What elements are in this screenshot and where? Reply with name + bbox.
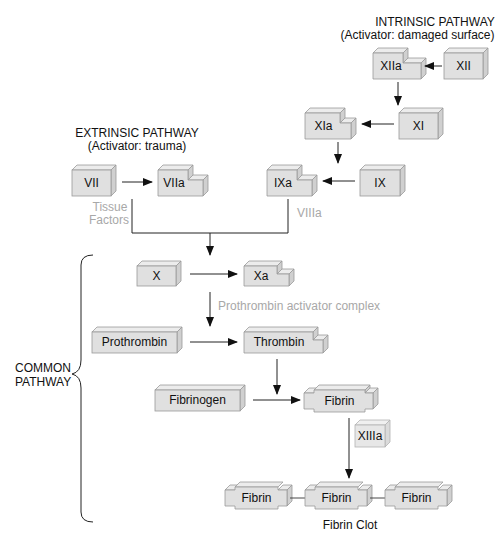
clot-fibrin-3-label: Fibrin <box>395 491 438 505</box>
factor-VII-label: VII <box>72 176 111 190</box>
fibrin-label: Fibrin <box>314 394 365 408</box>
factor-Xa-label: Xa <box>248 269 274 283</box>
common-pathway-label-1: COMMON <box>15 361 71 375</box>
tissue-factors-label-1: Tissue <box>90 200 130 214</box>
extrinsic-activator: (Activator: trauma) <box>72 139 202 153</box>
factor-VIIa-label: VIIa <box>159 176 189 190</box>
factor-XIIIa-label: XIIIa <box>355 429 385 443</box>
intrinsic-activator: (Activator: damaged surface) <box>335 28 498 42</box>
common-pathway-label-2: PATHWAY <box>15 375 71 389</box>
intrinsic-heading: INTRINSIC PATHWAY <box>375 15 495 29</box>
factor-XII-label: XII <box>444 59 483 73</box>
fibrin-clot-caption: Fibrin Clot <box>300 518 400 532</box>
factor-XIa-label: XIa <box>307 119 340 133</box>
clot-fibrin-1-label: Fibrin <box>235 491 278 505</box>
prothrombin-activator-complex-label: Prothrombin activator complex <box>218 299 380 313</box>
factor-VIIIa-label: VIIIa <box>297 206 322 220</box>
prothrombin-label: Prothrombin <box>92 335 177 349</box>
factor-XI-label: XI <box>399 119 438 133</box>
factor-IX-label: IX <box>360 176 400 190</box>
tissue-factors-label-2: Factors <box>88 213 130 227</box>
thrombin-label: Thrombin <box>248 335 310 349</box>
fibrinogen-label: Fibrinogen <box>155 393 240 407</box>
factor-X-label: X <box>137 269 176 283</box>
factor-XIIa-label: XIIa <box>376 59 406 73</box>
factor-IXa-label: IXa <box>268 176 298 190</box>
extrinsic-heading: EXTRINSIC PATHWAY <box>72 126 202 140</box>
clot-fibrin-2-label: Fibrin <box>315 491 358 505</box>
